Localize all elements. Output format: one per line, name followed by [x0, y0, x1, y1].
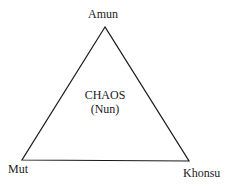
- label-amun: Amun: [88, 8, 118, 21]
- center-label-chaos: CHAOS: [75, 88, 135, 102]
- label-mut: Mut: [8, 163, 28, 176]
- center-label-nun: (Nun): [75, 102, 135, 116]
- center-label: CHAOS (Nun): [75, 88, 135, 116]
- label-khonsu: Khonsu: [183, 167, 220, 180]
